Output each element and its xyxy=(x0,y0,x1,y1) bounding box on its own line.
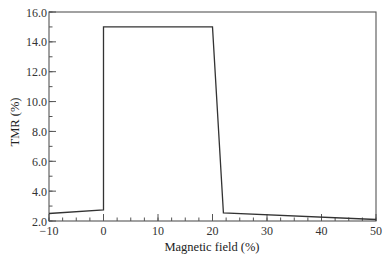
y-tick-label: 8.0 xyxy=(32,125,47,139)
data-series xyxy=(49,27,376,220)
x-tick-label: 30 xyxy=(261,224,273,238)
y-tick-label: 16.0 xyxy=(26,6,47,20)
major-ticks xyxy=(49,12,376,221)
x-tick-labels: −1001020304050 xyxy=(40,224,382,238)
plot-frame xyxy=(49,12,376,221)
y-tick-label: 10.0 xyxy=(26,95,47,109)
y-tick-label: 12.0 xyxy=(26,65,47,79)
plot-area-border xyxy=(49,12,376,221)
x-tick-label: 50 xyxy=(370,224,382,238)
x-tick-label: 10 xyxy=(152,224,164,238)
y-axis-label: TMR (%) xyxy=(8,98,22,147)
minor-ticks xyxy=(49,12,376,221)
x-tick-label: 0 xyxy=(101,224,107,238)
tmr-chart: −1001020304050 2.04.06.08.010.012.014.01… xyxy=(0,0,389,262)
x-tick-label: 40 xyxy=(316,224,328,238)
y-tick-labels: 2.04.06.08.010.012.014.016.0 xyxy=(26,6,47,229)
y-tick-label: 4.0 xyxy=(32,185,47,199)
series-line xyxy=(49,27,376,220)
y-tick-label: 6.0 xyxy=(32,155,47,169)
x-tick-label: 20 xyxy=(207,224,219,238)
y-tick-label: 14.0 xyxy=(26,35,47,49)
x-axis-label: Magnetic field (%) xyxy=(164,240,259,254)
y-tick-label: 2.0 xyxy=(32,215,47,229)
